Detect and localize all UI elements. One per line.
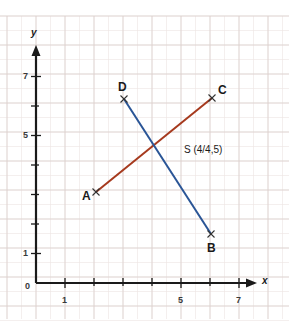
- point-marker-a: [93, 189, 100, 196]
- segment-db: [124, 99, 211, 234]
- x-tick-label-7: 7: [236, 296, 241, 305]
- point-label-a: A: [82, 190, 91, 202]
- intersection-label: S (4/4,5): [184, 145, 222, 155]
- origin-label: 0: [25, 282, 30, 291]
- point-marker-d: [121, 96, 128, 103]
- point-label-b: B: [207, 242, 216, 254]
- coordinate-plane-figure: y x 0 7 5 1 1 5 7 A B C D S (4/4,5): [0, 0, 289, 324]
- y-axis-title: y: [31, 28, 37, 38]
- grid-major: [0, 16, 289, 319]
- point-marker-c: [209, 95, 216, 102]
- point-label-d: D: [118, 81, 127, 93]
- y-tick-label-5: 5: [23, 131, 28, 140]
- plot-canvas: [0, 0, 289, 324]
- x-tick-label-5: 5: [178, 296, 183, 305]
- x-axis-title: x: [262, 276, 268, 286]
- x-axis: [36, 279, 257, 288]
- point-label-c: C: [218, 84, 227, 96]
- y-tick-label-1: 1: [23, 249, 28, 258]
- point-marker-b: [208, 231, 215, 238]
- x-tick-label-1: 1: [62, 296, 67, 305]
- y-tick-label-7: 7: [23, 72, 28, 81]
- grid-minor: [0, 16, 289, 321]
- y-axis: [32, 45, 41, 283]
